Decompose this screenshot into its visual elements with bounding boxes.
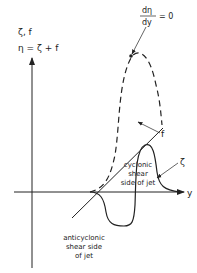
anticyclonic-label-1: anticyclonic <box>63 234 105 242</box>
y-axis-label-2: η = ζ + f <box>18 43 59 53</box>
cyclonic-label-3: side of jet <box>121 179 156 187</box>
vorticity-diagram: ζ, f η = ζ + f y dη dy = 0 f ζ cyclonic … <box>0 0 197 273</box>
eta-peak-point <box>129 54 133 58</box>
anticyclonic-label-2: shear side <box>66 243 102 251</box>
y-axis-label-1: ζ, f <box>18 27 33 37</box>
eta-label-den: dy <box>142 18 152 27</box>
diagram-svg: ζ, f η = ζ + f y dη dy = 0 f ζ cyclonic … <box>0 0 197 273</box>
x-axis-label: y <box>187 188 193 198</box>
eta-peak-leader <box>132 27 146 54</box>
anticyclonic-label-3: of jet <box>75 252 93 260</box>
f-line <box>72 128 163 218</box>
f-label: f <box>161 129 165 139</box>
cyclonic-label-2: shear <box>128 170 148 178</box>
zeta-leader <box>157 163 178 178</box>
eta-curve <box>90 53 162 192</box>
eta-label-eq: = 0 <box>159 12 173 21</box>
cyclonic-label-1: cyclonic <box>124 161 152 169</box>
zeta-label: ζ <box>180 157 185 167</box>
f-leader <box>138 122 160 133</box>
eta-label-num: dη <box>142 6 152 15</box>
